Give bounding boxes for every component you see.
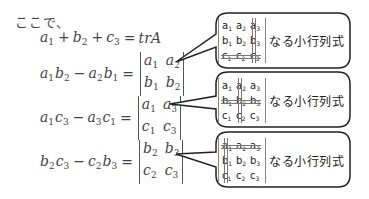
speech-bubble-1: a1a2a3b1b2b3c1c2c3なる小行列式 <box>218 15 348 65</box>
matrix-entry: b2 <box>236 33 250 48</box>
minor-label: なる小行列式 <box>269 152 344 169</box>
mini-matrix: a1a2a3b1b2b3c1c2c3 <box>218 78 266 123</box>
matrix-entry: b2 <box>236 153 250 168</box>
minor-label: なる小行列式 <box>269 32 344 49</box>
column-strike-line <box>252 18 256 63</box>
mini-matrix: a1a2a3b1b2b3c1c2c3 <box>218 138 266 183</box>
matrix-entry: a1 <box>222 78 236 93</box>
matrix-entry: b1 <box>222 33 236 48</box>
speech-bubble-3: a1a2a3b1b2b3c1c2c3なる小行列式 <box>218 135 348 185</box>
matrix-entry: a2 <box>236 18 250 33</box>
matrix-entry: a3 <box>250 78 264 93</box>
column-strike-line <box>224 138 228 183</box>
minor-label: なる小行列式 <box>269 92 344 109</box>
matrix-entry: c2 <box>236 168 250 183</box>
matrix-entry: c3 <box>250 108 264 123</box>
matrix-entry: c1 <box>222 108 236 123</box>
speech-bubble-2: a1a2a3b1b2b3c1c2c3なる小行列式 <box>218 75 348 125</box>
mini-matrix: a1a2a3b1b2b3c1c2c3 <box>218 18 266 63</box>
matrix-entry: b3 <box>250 153 264 168</box>
matrix-entry: a1 <box>222 18 236 33</box>
column-strike-line <box>238 78 242 123</box>
matrix-entry: c3 <box>250 168 264 183</box>
